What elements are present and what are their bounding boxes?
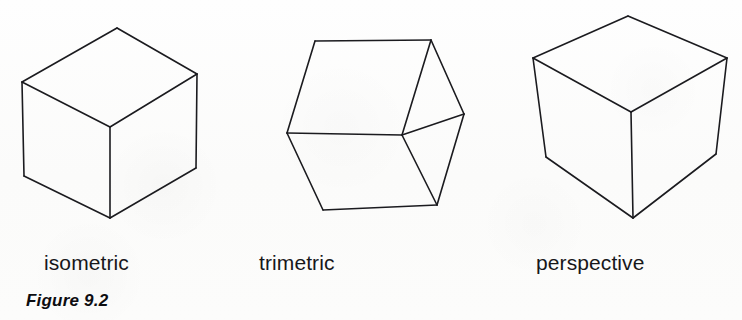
cube-edge-top-upper_left bbox=[22, 28, 117, 82]
cube-edge-top_right-center bbox=[402, 40, 431, 135]
cube-edge-lower_left-bottom bbox=[546, 157, 633, 218]
figure-caption: Figure 9.2 bbox=[26, 292, 108, 309]
figure-illustration: isometric trimetric perspective Figure 9… bbox=[0, 0, 742, 320]
cube-edge-left-bottom_left bbox=[287, 133, 323, 210]
cube-edge-upper_right-center bbox=[110, 74, 197, 127]
cube-edge-left-center bbox=[287, 133, 402, 135]
cube-edge-top-upper_right bbox=[628, 16, 727, 58]
cube-edge-upper_left-lower_left bbox=[533, 58, 546, 157]
cube-edge-right-bottom_right bbox=[437, 114, 464, 205]
cube-trimetric bbox=[287, 40, 464, 210]
cube-edge-top_left-left bbox=[287, 41, 315, 133]
cube-label-isometric: isometric bbox=[44, 252, 129, 273]
cube-edge-upper_right-lower_right bbox=[716, 58, 727, 154]
cube-label-trimetric: trimetric bbox=[259, 252, 335, 273]
cube-edge-top_left-top_right bbox=[315, 40, 431, 41]
cube-edge-top-upper_left bbox=[533, 16, 628, 58]
cube-edge-upper_left-center bbox=[22, 82, 110, 127]
cube-edge-bottom_left-bottom_right bbox=[323, 205, 437, 210]
cube-perspective bbox=[533, 16, 727, 218]
cube-edge-upper_left-center bbox=[533, 58, 631, 112]
cube-edge-upper_right-center bbox=[631, 58, 727, 112]
cube-edge-top_right-right bbox=[431, 40, 464, 114]
cube-edge-lower_right-bottom bbox=[633, 154, 716, 218]
cube-edge-lower_right-bottom bbox=[110, 168, 196, 218]
cube-edge-top-upper_right bbox=[117, 28, 197, 74]
cube-edge-upper_right-lower_right bbox=[196, 74, 197, 168]
cube-edge-right-center bbox=[402, 114, 464, 135]
cube-isometric bbox=[22, 28, 197, 218]
cube-edge-center-bottom_right bbox=[402, 135, 437, 205]
cube-edge-upper_left-lower_left bbox=[22, 82, 24, 176]
cube-label-perspective: perspective bbox=[536, 252, 645, 273]
cube-edge-center-bottom bbox=[631, 112, 633, 218]
cube-edge-lower_left-bottom bbox=[24, 176, 110, 218]
